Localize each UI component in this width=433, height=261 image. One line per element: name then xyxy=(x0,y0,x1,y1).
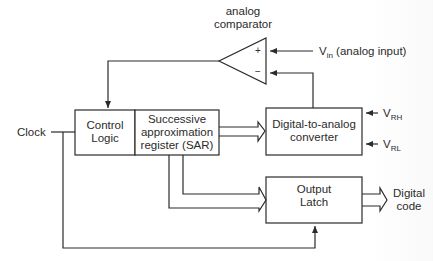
vin-label: Vin (analog input) xyxy=(319,45,406,62)
control-logic-text: Control Logic xyxy=(75,119,135,145)
digital-code-bus xyxy=(362,188,387,211)
digital-code-label: Digital code xyxy=(386,187,432,213)
minus-sign: − xyxy=(255,66,261,77)
plus-sign: + xyxy=(255,45,261,56)
comparator-to-control-line xyxy=(108,61,219,108)
dac-to-comparator-line xyxy=(270,73,313,108)
vrl-label: VRL xyxy=(383,138,401,155)
sar-text: Successive approximation register (SAR) xyxy=(135,113,219,152)
latch-text: Output Latch xyxy=(266,183,362,209)
clock-label: Clock xyxy=(17,126,46,139)
sar-to-latch-bus xyxy=(169,155,266,211)
comparator-label: analog comparator xyxy=(203,5,283,31)
vrh-label: VRH xyxy=(383,107,402,124)
dac-text: Digital-to-analog converter xyxy=(266,118,362,144)
sar-to-dac-bus xyxy=(219,122,265,141)
